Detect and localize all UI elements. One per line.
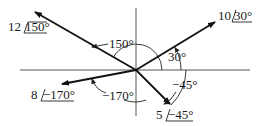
label-phasor-10: 10 30° bbox=[218, 8, 252, 23]
magnitude-10: 10 bbox=[218, 8, 231, 23]
phasor-5-minus-45 bbox=[136, 70, 170, 104]
annotation-150: 150° bbox=[109, 36, 134, 51]
phasor-diagram: 12 150° 10 30° 8 −170° 5 −45° 150° 30° −… bbox=[0, 0, 262, 126]
magnitude-8: 8 bbox=[31, 87, 38, 102]
label-phasor-5: 5 −45° bbox=[156, 107, 194, 122]
label-phasor-12: 12 150° bbox=[8, 19, 50, 34]
annotation-30: 30° bbox=[168, 49, 186, 64]
annotation-minus-170: −170° bbox=[102, 88, 134, 103]
angle-minus-45: −45° bbox=[168, 107, 194, 122]
phasor-8-minus-170 bbox=[62, 70, 136, 84]
angle-30: 30° bbox=[234, 8, 252, 23]
annotation-minus-45: −45° bbox=[172, 77, 198, 92]
magnitude-5: 5 bbox=[156, 107, 163, 122]
angle-150: 150° bbox=[25, 19, 50, 34]
label-phasor-8: 8 −170° bbox=[31, 87, 75, 102]
magnitude-12: 12 bbox=[8, 19, 21, 34]
angle-minus-170: −170° bbox=[43, 87, 75, 102]
